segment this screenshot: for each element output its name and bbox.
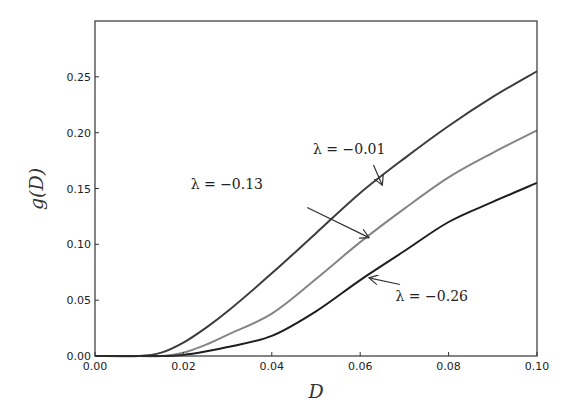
data-series (95, 71, 537, 356)
annotation-label: λ = −0.01 (313, 141, 385, 157)
y-tick-label: 0.00 (67, 350, 92, 363)
y-axis-ticks: 0.000.050.100.150.200.25 (67, 71, 100, 363)
x-axis-label: D (307, 380, 323, 402)
y-tick-label: 0.10 (67, 238, 92, 251)
plot-frame (95, 21, 537, 356)
series-line-2 (95, 183, 537, 356)
annotations: λ = −0.01λ = −0.13λ = −0.26 (191, 141, 468, 303)
x-tick-label: 0.10 (525, 360, 550, 373)
annotation-label: λ = −0.13 (191, 176, 263, 192)
x-tick-label: 0.02 (171, 360, 196, 373)
x-tick-label: 0.04 (260, 360, 285, 373)
y-tick-label: 0.05 (67, 294, 92, 307)
series-line-0 (95, 71, 537, 356)
y-tick-label: 0.15 (67, 183, 92, 196)
x-tick-label: 0.06 (348, 360, 373, 373)
x-tick-label: 0.08 (436, 360, 461, 373)
series-line-1 (95, 130, 537, 356)
annotation-arrow (369, 278, 400, 285)
annotation-label: λ = −0.26 (396, 288, 468, 304)
y-tick-label: 0.25 (67, 71, 92, 84)
y-tick-label: 0.20 (67, 127, 92, 140)
y-axis-label: g(D) (25, 168, 47, 210)
line-chart: λ = −0.01λ = −0.13λ = −0.26 0.000.020.04… (0, 0, 572, 414)
